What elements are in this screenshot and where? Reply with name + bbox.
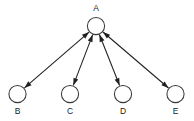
edge-a-d — [99, 35, 119, 86]
nodes-layer: ABCDE — [9, 3, 184, 117]
edge-line — [103, 32, 169, 88]
node-e[interactable]: E — [167, 85, 184, 116]
arrowhead-to-c — [73, 78, 78, 86]
arrowhead-to-d — [115, 78, 120, 86]
node-label-e: E — [173, 106, 179, 116]
diagram-canvas: ABCDE — [0, 0, 194, 121]
edge-a-e — [103, 32, 169, 88]
edge-line — [99, 35, 119, 86]
edge-a-c — [73, 35, 92, 86]
node-c[interactable]: C — [61, 85, 78, 116]
graph-svg: ABCDE — [0, 0, 194, 121]
node-circle-c[interactable] — [61, 85, 78, 102]
edges-layer — [24, 32, 168, 88]
arrowhead-to-a — [88, 35, 93, 43]
node-a[interactable]: A — [87, 3, 104, 35]
node-label-b: B — [15, 106, 21, 116]
node-circle-a[interactable] — [87, 17, 104, 34]
node-label-d: D — [120, 106, 126, 116]
node-label-c: C — [67, 106, 73, 116]
edge-line — [73, 35, 92, 86]
edge-line — [24, 32, 89, 88]
node-b[interactable]: B — [9, 85, 26, 116]
node-circle-b[interactable] — [9, 85, 26, 102]
node-d[interactable]: D — [114, 85, 131, 116]
arrowhead-to-a — [99, 35, 104, 43]
edge-a-b — [24, 32, 89, 88]
node-circle-e[interactable] — [167, 85, 184, 102]
node-circle-d[interactable] — [114, 85, 131, 102]
node-label-a: A — [93, 3, 99, 13]
